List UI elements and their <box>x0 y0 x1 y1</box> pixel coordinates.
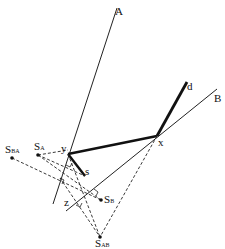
geometry-diagram: A B d x y s z SBA SA SB SAB <box>0 0 225 249</box>
point-s-ba <box>10 156 14 160</box>
segment-y-s <box>68 154 85 176</box>
label-y: y <box>61 142 67 154</box>
label-s-ab: SAB <box>95 237 109 249</box>
label-s-b: SB <box>104 193 114 205</box>
label-s-a: SA <box>34 140 45 152</box>
label-x: x <box>158 136 164 148</box>
label-a: A <box>115 5 123 17</box>
label-z: z <box>64 196 69 208</box>
label-s-ba: SBA <box>5 143 20 155</box>
point-s-a <box>36 153 40 157</box>
segment-y-x <box>68 136 157 154</box>
label-s: s <box>85 165 89 177</box>
label-d: d <box>187 80 193 92</box>
point-s-b <box>99 198 103 202</box>
segment-x-d <box>157 82 187 136</box>
label-b: B <box>214 92 221 104</box>
